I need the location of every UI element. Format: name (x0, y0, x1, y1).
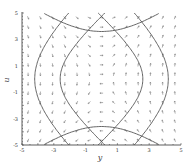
y-tick-label: 1 (15, 63, 18, 69)
x-tick-label: 1 (116, 147, 119, 153)
solution-curve-left-hyperbola-inner (60, 13, 105, 145)
y-tick-label: -5 (13, 142, 18, 148)
y-tick-label: 5 (15, 10, 18, 16)
solution-curve-right-hyperbola-outer (134, 13, 168, 145)
x-tick-label: 5 (179, 147, 182, 153)
solution-curves (35, 13, 169, 145)
y-axis-label: u (2, 77, 11, 82)
y-tick-label: -1 (13, 89, 18, 95)
solution-curve-right-hyperbola-inner (98, 13, 143, 145)
direction-arrows (27, 16, 175, 142)
y-tick-label: 3 (15, 36, 18, 42)
x-tick-label: -1 (83, 147, 88, 153)
x-tick-label: -3 (51, 147, 56, 153)
y-tick-label: -3 (13, 116, 18, 122)
x-tick-label: -5 (20, 147, 25, 153)
direction-field-plot: -5-3-1135 -5-3-1135 y u (0, 0, 192, 163)
solution-curve-left-hyperbola-outer (35, 13, 69, 145)
x-axis-label: y (97, 153, 103, 162)
x-tick-label: 3 (148, 147, 151, 153)
